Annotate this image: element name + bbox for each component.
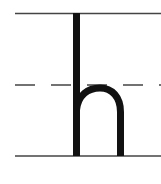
handwriting-guide: h	[0, 0, 161, 184]
